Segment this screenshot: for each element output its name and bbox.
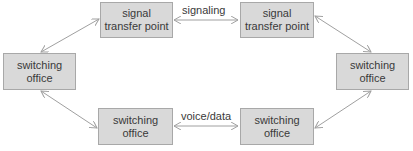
link-stp-left-so-left bbox=[41, 19, 99, 52]
node-label-line1: switching bbox=[350, 59, 395, 72]
node-label-line1: signal bbox=[122, 7, 151, 20]
node-label-line1: switching bbox=[17, 59, 62, 72]
switching-office-right: switching office bbox=[336, 53, 409, 90]
node-label-line1: switching bbox=[113, 114, 158, 127]
switching-office-bottom-left: switching office bbox=[98, 108, 173, 145]
node-label-line2: office bbox=[264, 127, 290, 140]
node-label-line2: office bbox=[359, 72, 385, 85]
switching-office-left: switching office bbox=[3, 53, 76, 90]
link-so-right-so-bottom-right bbox=[315, 91, 371, 128]
node-label-line1: switching bbox=[254, 114, 299, 127]
signaling-edge-label: signaling bbox=[182, 4, 225, 16]
node-label-line2: transfer point bbox=[245, 20, 309, 33]
voice-data-edge-label: voice/data bbox=[181, 110, 231, 122]
node-label-line1: signal bbox=[263, 7, 292, 20]
signal-transfer-point-right: signal transfer point bbox=[240, 2, 314, 38]
link-so-left-so-bottom-left bbox=[41, 91, 97, 128]
signal-transfer-point-left: signal transfer point bbox=[100, 2, 173, 38]
node-label-line2: office bbox=[26, 72, 52, 85]
switching-office-bottom-right: switching office bbox=[240, 108, 314, 145]
node-label-line2: transfer point bbox=[104, 20, 168, 33]
node-label-line2: office bbox=[122, 127, 148, 140]
link-stp-right-so-right bbox=[315, 16, 371, 52]
